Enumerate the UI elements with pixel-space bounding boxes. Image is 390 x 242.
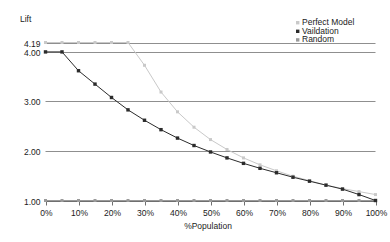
- series-marker: [44, 199, 47, 202]
- series-marker: [291, 176, 294, 179]
- y-axis-title: Lift: [20, 14, 32, 24]
- series-marker: [176, 199, 179, 202]
- series-marker: [242, 162, 245, 165]
- series-marker: [358, 199, 361, 202]
- series-marker: [110, 199, 113, 202]
- series-marker: [127, 41, 130, 44]
- series-marker: [176, 136, 179, 139]
- series-marker: [94, 199, 97, 202]
- series-marker: [209, 199, 212, 202]
- series-marker: [357, 193, 360, 196]
- series-marker: [61, 41, 64, 44]
- series-marker: [275, 199, 278, 202]
- series-marker: [44, 41, 47, 44]
- x-tick-label: 0%: [40, 208, 53, 218]
- series-marker: [259, 163, 262, 166]
- series-marker: [275, 171, 278, 174]
- x-axis-title: %Population: [184, 221, 232, 231]
- series-marker: [192, 144, 195, 147]
- series-marker: [127, 199, 130, 202]
- x-tick-label: 20%: [104, 208, 121, 218]
- series-marker: [358, 190, 361, 193]
- series-marker: [143, 199, 146, 202]
- x-tick-label: 50%: [203, 208, 220, 218]
- series-marker: [61, 199, 64, 202]
- legend-marker: [296, 30, 299, 33]
- series-marker: [242, 156, 245, 159]
- series-marker: [176, 110, 179, 113]
- y-tick-label: 2.00: [24, 147, 41, 157]
- series-marker: [160, 91, 163, 94]
- x-tick-label: 70%: [269, 208, 286, 218]
- series-marker: [259, 199, 262, 202]
- x-tick-label: 90%: [335, 208, 352, 218]
- series-marker: [110, 96, 113, 99]
- series-marker: [143, 119, 146, 122]
- series-marker: [93, 82, 96, 85]
- x-tick-label: 60%: [236, 208, 253, 218]
- series-marker: [226, 148, 229, 151]
- x-tick-label: 80%: [302, 208, 319, 218]
- series-marker: [341, 187, 344, 190]
- series-marker: [126, 108, 129, 111]
- series-marker: [209, 138, 212, 141]
- legend-marker: [296, 21, 299, 24]
- series-marker: [308, 199, 311, 202]
- y-tick-label: 4.00: [24, 48, 41, 58]
- series-marker: [143, 64, 146, 67]
- series-marker: [374, 199, 377, 202]
- x-tick-label: 10%: [71, 208, 88, 218]
- series-marker: [94, 41, 97, 44]
- series-marker: [193, 199, 196, 202]
- x-tick-label: 100%: [366, 208, 388, 218]
- series-marker: [324, 183, 327, 186]
- series-marker: [193, 126, 196, 129]
- lift-chart: Lift 4.194.003.002.001.00 0%10%20%30%40%…: [0, 0, 390, 242]
- legend-marker: [296, 38, 299, 41]
- series-marker: [258, 167, 261, 170]
- series-marker: [110, 41, 113, 44]
- x-tick-label: 30%: [137, 208, 154, 218]
- series-marker: [225, 156, 228, 159]
- x-tick-label: 40%: [170, 208, 187, 218]
- series-marker: [242, 199, 245, 202]
- series-marker: [77, 199, 80, 202]
- series-marker: [60, 50, 63, 53]
- series-marker: [292, 199, 295, 202]
- series-marker: [308, 179, 311, 182]
- series-marker: [209, 150, 212, 153]
- series-marker: [226, 199, 229, 202]
- series-marker: [44, 50, 47, 53]
- series-marker: [325, 199, 328, 202]
- series-marker: [341, 199, 344, 202]
- lift-chart-canvas: Lift 4.194.003.002.001.00 0%10%20%30%40%…: [0, 0, 390, 242]
- series-marker: [77, 41, 80, 44]
- series-marker: [77, 69, 80, 72]
- y-tick-label: 1.00: [24, 197, 41, 207]
- y-tick-label: 3.00: [24, 97, 41, 107]
- series-marker: [159, 128, 162, 131]
- legend-label: Random: [302, 34, 334, 44]
- series-marker: [160, 199, 163, 202]
- series-marker: [374, 193, 377, 196]
